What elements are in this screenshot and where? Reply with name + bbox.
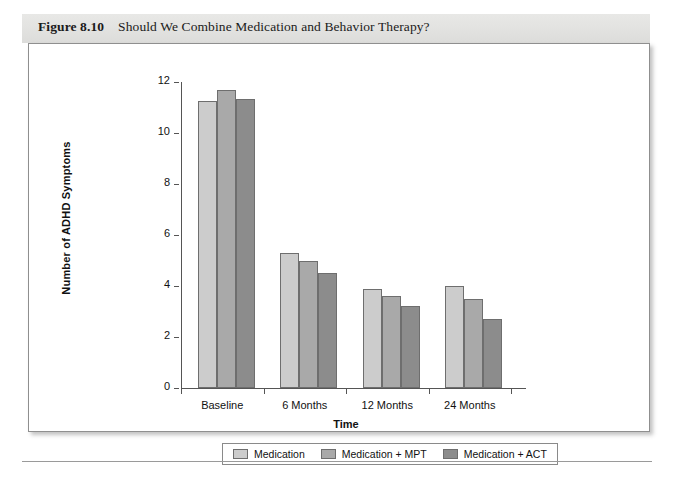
y-tick-mark bbox=[174, 286, 179, 287]
x-tick-mark bbox=[346, 389, 347, 394]
bar bbox=[445, 286, 464, 388]
y-axis-tick: 6 bbox=[29, 235, 179, 236]
y-axis-tick: 2 bbox=[29, 337, 179, 338]
legend-swatch bbox=[233, 449, 248, 459]
y-tick-label: 6 bbox=[164, 227, 170, 239]
x-tick-mark bbox=[264, 389, 265, 394]
legend-label: Medication bbox=[254, 448, 305, 460]
x-axis-title: Time bbox=[181, 418, 511, 430]
legend-swatch bbox=[443, 449, 458, 459]
bar bbox=[217, 90, 236, 388]
legend-label: Medication + MPT bbox=[342, 448, 427, 460]
bar-chart: Number of ADHD Symptoms 024681012 Baseli… bbox=[29, 44, 649, 431]
y-axis-tick: 4 bbox=[29, 286, 179, 287]
x-tick-label: 24 Months bbox=[410, 399, 530, 411]
bar bbox=[464, 299, 483, 388]
y-tick-mark bbox=[174, 388, 179, 389]
page-divider-rule bbox=[22, 461, 652, 462]
y-tick-label: 8 bbox=[164, 176, 170, 188]
figure-number: Figure 8.10 bbox=[38, 19, 104, 34]
bar bbox=[401, 306, 420, 388]
x-tick-mark bbox=[181, 389, 182, 394]
figure-caption-bar: Figure 8.10Should We Combine Medication … bbox=[22, 14, 650, 43]
bar bbox=[363, 289, 382, 388]
figure-body: Number of ADHD Symptoms 024681012 Baseli… bbox=[28, 43, 650, 432]
y-axis-title: Number of ADHD Symptoms bbox=[60, 118, 72, 318]
plot-area bbox=[181, 82, 511, 388]
legend-swatch bbox=[321, 449, 336, 459]
y-tick-mark bbox=[174, 235, 179, 236]
legend-label: Medication + ACT bbox=[464, 448, 547, 460]
bar bbox=[382, 296, 401, 388]
y-tick-mark bbox=[174, 337, 179, 338]
y-axis-tick: 0 bbox=[29, 388, 179, 389]
legend-item: Medication bbox=[233, 448, 305, 460]
y-tick-label: 0 bbox=[164, 380, 170, 392]
y-tick-mark bbox=[174, 82, 179, 83]
x-tick-mark bbox=[511, 389, 512, 394]
bar bbox=[236, 99, 255, 388]
bar bbox=[318, 273, 337, 388]
y-tick-label: 2 bbox=[164, 329, 170, 341]
figure-block: Figure 8.10Should We Combine Medication … bbox=[22, 14, 650, 438]
bar bbox=[280, 253, 299, 388]
y-tick-label: 10 bbox=[158, 125, 170, 137]
y-tick-label: 4 bbox=[164, 278, 170, 290]
legend-item: Medication + ACT bbox=[443, 448, 547, 460]
figure-caption-text: Should We Combine Medication and Behavio… bbox=[118, 19, 430, 34]
legend-item: Medication + MPT bbox=[321, 448, 427, 460]
y-axis-tick: 10 bbox=[29, 133, 179, 134]
bar bbox=[299, 261, 318, 389]
x-tick-mark bbox=[429, 389, 430, 394]
y-tick-mark bbox=[174, 133, 179, 134]
x-axis-line bbox=[181, 388, 526, 389]
bar bbox=[483, 319, 502, 388]
y-axis-tick: 8 bbox=[29, 184, 179, 185]
y-tick-label: 12 bbox=[158, 74, 170, 86]
y-tick-mark bbox=[174, 184, 179, 185]
bar bbox=[198, 101, 217, 388]
y-axis-tick: 12 bbox=[29, 82, 179, 83]
figure-caption: Figure 8.10Should We Combine Medication … bbox=[38, 19, 430, 35]
